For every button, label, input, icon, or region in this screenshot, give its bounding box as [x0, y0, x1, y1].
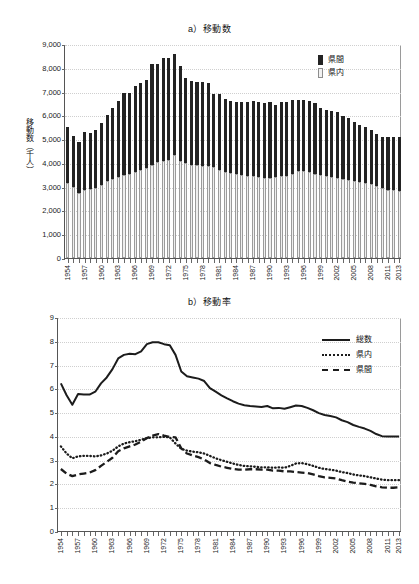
x-tick-mark [216, 532, 217, 536]
bar-segment-inter [66, 127, 69, 183]
bar-segment-intra [353, 181, 356, 258]
bar-segment-intra [212, 167, 215, 258]
x-tick-mark [101, 532, 102, 536]
x-tick-label: 1969 [143, 538, 150, 554]
x-tick-mark [130, 259, 131, 263]
bar-segment-inter [207, 83, 210, 166]
y-tick-mark [62, 116, 65, 117]
bar-segment-intra [190, 165, 193, 258]
bar-segment-intra [207, 166, 210, 258]
x-tick-mark [370, 532, 371, 536]
x-tick-mark [130, 532, 131, 536]
x-tick-mark [287, 259, 288, 263]
x-tick-mark [382, 532, 383, 536]
x-tick-label: 1960 [91, 538, 98, 554]
bar-segment-intra [263, 178, 266, 258]
x-tick-mark [164, 532, 165, 536]
bar-segment-inter [195, 82, 198, 166]
x-tick-mark [147, 532, 148, 536]
y-tick-label: 8,000 [42, 65, 61, 73]
bar-segment-intra [89, 189, 92, 258]
x-tick-mark [233, 532, 234, 536]
legend-label: 県内 [328, 66, 344, 79]
x-tick-label: 1993 [280, 538, 287, 554]
bar-column [207, 44, 210, 258]
x-tick-label: 1960 [98, 265, 105, 281]
x-tick-mark [231, 259, 232, 263]
bar-segment-intra [66, 183, 69, 258]
x-tick-mark [281, 259, 282, 263]
y-tick-mark [62, 69, 65, 70]
bar-column [195, 44, 198, 258]
x-tick-mark [180, 259, 181, 263]
x-tick-mark [330, 532, 331, 536]
x-tick-mark [273, 532, 274, 536]
bar-column [280, 44, 283, 258]
bar-segment-inter [77, 142, 80, 193]
legend-line-total-icon [322, 339, 350, 341]
bar-segment-intra [347, 180, 350, 258]
x-tick-mark [388, 532, 389, 536]
x-tick-mark [102, 259, 103, 263]
bar-column [358, 44, 361, 258]
bar-segment-intra [325, 176, 328, 258]
bar-segment-intra [398, 191, 401, 258]
bar-segment-inter [246, 102, 249, 176]
bar-segment-inter [280, 102, 283, 176]
x-tick-mark [158, 532, 159, 536]
bar-segment-inter [117, 101, 120, 177]
x-tick-mark [343, 259, 344, 263]
y-tick-label: 0 [57, 255, 61, 263]
x-tick-mark [259, 259, 260, 263]
y-tick-label: 1 [50, 504, 54, 512]
bar-segment-inter [128, 93, 131, 174]
x-tick-label: 1957 [81, 265, 88, 281]
bar-segment-inter [212, 94, 215, 167]
x-tick-mark [309, 259, 310, 263]
bar-segment-intra [156, 162, 159, 258]
x-tick-mark [332, 259, 333, 263]
x-tick-label: 2008 [367, 265, 374, 281]
x-tick-mark [187, 532, 188, 536]
x-tick-label: 2008 [366, 538, 373, 554]
bar-column [268, 44, 271, 258]
y-tick-label: 0 [50, 528, 54, 536]
bar-segment-inter [111, 108, 114, 179]
bar-segment-intra [100, 185, 103, 258]
gridline [65, 188, 401, 189]
bar-segment-inter [240, 102, 243, 175]
bar-segment-inter [156, 64, 159, 163]
bar-segment-inter [145, 80, 148, 168]
y-tick-mark [55, 532, 58, 533]
bar-segment-intra [240, 175, 243, 258]
bar-segment-inter [150, 64, 153, 166]
bar-column [89, 44, 92, 258]
legend-swatch-inter-icon [318, 55, 323, 65]
bar-column [134, 44, 137, 258]
bar-segment-intra [274, 177, 277, 258]
x-tick-mark [296, 532, 297, 536]
bar-segment-inter [218, 94, 221, 170]
bar-segment-intra [150, 165, 153, 258]
gridline [65, 235, 401, 236]
bar-segment-intra [370, 184, 373, 258]
bar-segment-inter [274, 105, 277, 178]
chart-a-y-axis-label: 移動数（千人） [24, 118, 32, 174]
x-tick-mark [349, 259, 350, 263]
bar-column [83, 44, 86, 258]
bar-column [128, 44, 131, 258]
y-tick-mark [62, 45, 65, 46]
bar-column [252, 44, 255, 258]
x-tick-label: 1975 [182, 265, 189, 281]
bar-column [162, 44, 165, 258]
bar-segment-inter [325, 110, 328, 176]
bar-segment-inter [179, 66, 182, 160]
bar-column [297, 44, 300, 258]
legend-item-inter: 県間 [322, 362, 372, 377]
x-tick-mark [84, 532, 85, 536]
gridline [65, 69, 401, 70]
bar-segment-inter [347, 118, 350, 180]
x-tick-label: 1990 [263, 538, 270, 554]
bar-segment-intra [308, 172, 311, 258]
x-tick-mark [107, 532, 108, 536]
